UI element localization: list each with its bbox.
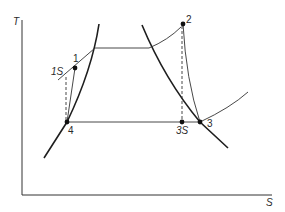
low-pressure-line [67,92,248,122]
label-2: 2 [186,14,192,25]
point-2 [181,22,186,27]
label-1s: 1S [51,66,64,77]
label-3s: 3S [176,125,189,136]
point-4 [65,120,70,125]
y-axis-label: T [13,16,20,27]
ts-diagram: T S 1 1S 2 3 3S 4 [0,0,285,212]
x-axis-label: S [266,197,273,208]
label-1: 1 [73,53,79,64]
process-2-3 [183,24,200,122]
point-3s [180,120,185,125]
point-1 [73,66,78,71]
label-3: 3 [207,118,213,129]
point-3 [198,120,203,125]
label-4: 4 [68,125,74,136]
